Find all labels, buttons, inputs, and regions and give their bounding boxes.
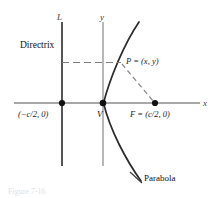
parabola-curve — [104, 22, 142, 181]
vertex-label: V — [97, 110, 103, 119]
focus-label: F = (c/2, 0) — [130, 110, 170, 119]
dashed-p-to-focus — [122, 64, 154, 102]
directrix-point-label: (−c/2, 0) — [18, 110, 48, 119]
parabola-figure: L y x Directrix P = (x, y) V F = (c/2, 0… — [0, 0, 217, 198]
directrix-line-label: L — [57, 13, 62, 22]
figure-canvas — [0, 0, 217, 198]
parabola-label: Parabola — [144, 174, 176, 183]
directrix-text-label: Directrix — [20, 41, 54, 51]
x-axis-label: x — [203, 99, 207, 108]
focus-dot — [152, 100, 158, 106]
figure-caption: Figure 7-16 — [8, 188, 46, 196]
y-axis-label: y — [100, 13, 104, 22]
directrix-point-dot — [59, 100, 65, 106]
point-p-label: P = (x, y) — [126, 57, 158, 66]
vertex-dot — [100, 100, 107, 107]
